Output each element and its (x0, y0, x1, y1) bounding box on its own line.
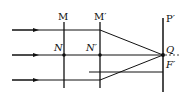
ray-top-converge (100, 30, 163, 55)
point-N-prime (98, 53, 102, 57)
ray-top-converge-arrow (100, 30, 151, 50)
ray-bottom-converge (100, 55, 163, 80)
label-F-prime: F′ (165, 59, 176, 70)
label-N-prime: N′ (85, 42, 98, 53)
ray-bottom-converge-arrow (100, 61, 147, 80)
label-Q: Q (166, 44, 174, 55)
label-M-prime: M′ (94, 11, 107, 22)
point-Q (161, 53, 165, 57)
label-M: M (58, 11, 68, 22)
label-P-prime: P′ (166, 13, 176, 24)
ray-diagram: M M′ P′ N N′ Q F′ (0, 0, 186, 103)
label-N: N (53, 42, 64, 53)
point-N (62, 53, 66, 57)
